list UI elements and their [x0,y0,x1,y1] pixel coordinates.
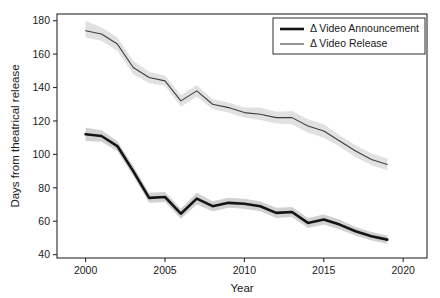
y-axis-title: Days from theatrical release [9,64,21,207]
x-axis-title: Year [230,282,253,294]
y-tick-label: 140 [32,81,50,93]
x-tick-label: 2000 [74,264,98,276]
x-tick-label: 2005 [153,264,177,276]
legend-item-label[interactable]: Δ Video Release [310,37,388,49]
chart-canvas: 4060801001201401601802000200520102015202… [0,0,440,298]
y-tick-label: 80 [38,182,50,194]
y-tick-label: 60 [38,215,50,227]
chart-figure: 4060801001201401601802000200520102015202… [0,0,440,298]
y-tick-label: 120 [32,115,50,127]
chart-legend[interactable]: Δ Video AnnouncementΔ Video Release [273,18,425,54]
y-tick-label: 180 [32,14,50,26]
y-tick-label: 100 [32,148,50,160]
y-tick-label: 160 [32,48,50,60]
y-tick-label: 40 [38,248,50,260]
x-tick-label: 2020 [392,264,416,276]
legend-item-label[interactable]: Δ Video Announcement [310,22,419,34]
x-tick-label: 2015 [312,264,336,276]
x-tick-label: 2010 [233,264,257,276]
